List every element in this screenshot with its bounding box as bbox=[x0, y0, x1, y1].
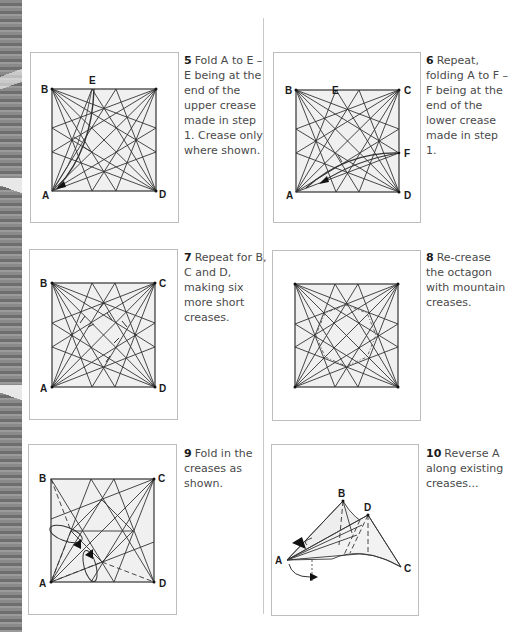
label-C: C bbox=[404, 85, 411, 96]
label-D: D bbox=[159, 189, 166, 200]
step-7-diagram: B C A D bbox=[29, 249, 178, 420]
label-A: A bbox=[40, 383, 47, 394]
label-E: E bbox=[89, 75, 96, 86]
step-5-caption: 5Fold A to E – E being at the end of the… bbox=[184, 53, 268, 158]
collapse-diagram: B D A C bbox=[272, 445, 420, 617]
step-text: Re-crease the octagon with mountain crea… bbox=[426, 251, 505, 309]
label-D: D bbox=[404, 190, 411, 201]
step-text: Fold A to E – E being at the end of the … bbox=[184, 54, 263, 157]
step-6-diagram: B E C F A D bbox=[273, 52, 421, 223]
label-B: B bbox=[285, 85, 292, 96]
step-6-caption: 6Repeat, folding A to F – F being at the… bbox=[426, 53, 510, 158]
label-C: C bbox=[158, 473, 165, 484]
crease-pattern-diagram: B E A D bbox=[31, 53, 180, 224]
step-text: Repeat, folding A to F – F being at the … bbox=[426, 54, 508, 157]
label-A: A bbox=[39, 578, 46, 589]
label-C: C bbox=[404, 563, 411, 574]
step-number: 7 bbox=[184, 251, 192, 264]
label-F: F bbox=[404, 148, 410, 159]
step-9-caption: 9Fold in the creases as shown. bbox=[184, 446, 268, 491]
step-text: Fold in the creases as shown. bbox=[184, 447, 252, 490]
step-9-diagram: B C A D bbox=[28, 444, 177, 615]
photo-highlight bbox=[0, 385, 22, 405]
step-8-caption: 8Re-crease the octagon with mountain cre… bbox=[426, 250, 510, 310]
label-B: B bbox=[39, 473, 46, 484]
step-10-caption: 10Reverse A along existing creases... bbox=[426, 446, 510, 491]
step-7-caption: 7Repeat for B, C and D, making six more … bbox=[184, 250, 268, 325]
label-E: E bbox=[332, 85, 339, 96]
step-number: 5 bbox=[184, 54, 192, 67]
step-number: 6 bbox=[426, 54, 434, 67]
label-D: D bbox=[159, 578, 166, 589]
step-number: 10 bbox=[426, 447, 441, 460]
step-5-diagram: B E A D bbox=[30, 52, 179, 223]
photo-highlight bbox=[0, 178, 22, 198]
crease-pattern-diagram bbox=[273, 251, 422, 422]
label-B: B bbox=[338, 488, 345, 499]
label-A: A bbox=[275, 555, 282, 566]
label-B: B bbox=[40, 278, 47, 289]
step-10-diagram: B D A C bbox=[271, 444, 419, 616]
label-D: D bbox=[364, 502, 371, 513]
step-text: Repeat for B, C and D, making six more s… bbox=[184, 251, 267, 324]
label-B: B bbox=[41, 84, 48, 95]
step-number: 9 bbox=[184, 447, 192, 460]
crease-pattern-diagram: B C A D bbox=[29, 445, 178, 616]
step-number: 8 bbox=[426, 251, 434, 264]
decorative-photo-strip bbox=[0, 0, 22, 632]
label-D: D bbox=[159, 383, 166, 394]
crease-pattern-diagram: B C A D bbox=[30, 250, 179, 421]
step-8-diagram bbox=[272, 250, 421, 421]
label-C: C bbox=[159, 278, 166, 289]
crease-pattern-diagram: B E C F A D bbox=[274, 53, 422, 224]
label-A: A bbox=[42, 190, 49, 201]
label-A: A bbox=[286, 190, 293, 201]
